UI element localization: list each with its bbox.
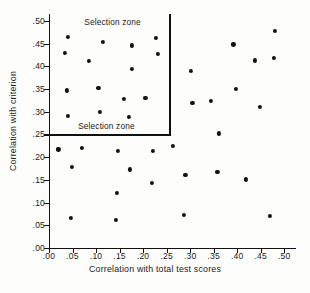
- data-point: [156, 51, 160, 55]
- data-point: [130, 43, 134, 47]
- data-point: [80, 146, 84, 150]
- data-point: [69, 215, 73, 219]
- data-point: [128, 167, 132, 171]
- data-point: [56, 147, 60, 151]
- y-tick-label: .10: [33, 198, 45, 208]
- data-point: [70, 165, 74, 169]
- figure-caption: [8, 284, 310, 293]
- data-point: [273, 29, 277, 33]
- data-point: [66, 114, 70, 118]
- data-point: [150, 149, 154, 153]
- y-tick-label: .50: [33, 16, 45, 26]
- selection-zone-vertical-boundary: [169, 14, 171, 134]
- data-point: [268, 214, 272, 218]
- data-point: [62, 51, 66, 55]
- data-point: [215, 170, 219, 174]
- data-point: [183, 173, 187, 177]
- data-point: [171, 144, 175, 148]
- data-point: [244, 177, 248, 181]
- x-tick-label: .25: [160, 251, 172, 261]
- y-tick-label: .35: [33, 84, 45, 94]
- data-point: [122, 97, 126, 101]
- x-axis-title: Correlation with total test scores: [0, 264, 310, 274]
- data-point: [189, 69, 193, 73]
- data-point: [149, 181, 153, 185]
- data-point: [66, 35, 70, 39]
- x-axis-tick-labels: .00.05.10.15.20.25.30.35.40.45.50: [49, 251, 296, 263]
- x-tick-label: .45: [254, 251, 266, 261]
- y-tick-label: .20: [33, 152, 45, 162]
- y-axis-tick-labels: .00.05.10.15.20.25.30.35.40.45.50: [18, 14, 45, 248]
- data-point: [87, 59, 91, 63]
- x-tick-label: .20: [137, 251, 149, 261]
- x-tick-label: .30: [184, 251, 196, 261]
- x-tick-label: .00: [43, 251, 55, 261]
- x-tick-label: .05: [66, 251, 78, 261]
- data-point: [231, 42, 235, 46]
- selection-zone-horizontal-boundary: [49, 134, 171, 136]
- data-point: [154, 36, 158, 40]
- y-tick-label: .45: [33, 39, 45, 49]
- data-point: [182, 213, 186, 217]
- y-tick-label: .25: [33, 129, 45, 139]
- y-tick-label: .05: [33, 220, 45, 230]
- y-axis-title: Correlation with criterion: [8, 46, 18, 196]
- data-point: [116, 149, 120, 153]
- data-point: [217, 131, 221, 135]
- selection-zone-label: Selection zone: [78, 121, 135, 131]
- x-tick-label: .10: [90, 251, 102, 261]
- y-tick-label: .15: [33, 175, 45, 185]
- y-tick-label: .30: [33, 107, 45, 117]
- data-point: [258, 105, 262, 109]
- data-point: [96, 86, 100, 90]
- x-tick-label: .50: [278, 251, 290, 261]
- data-point: [272, 56, 276, 60]
- selection-zone-label: Selection zone: [84, 17, 141, 27]
- data-point: [234, 87, 238, 91]
- data-point: [143, 96, 147, 100]
- x-axis-line: [49, 248, 296, 249]
- figure-scatter-plot: Selection zoneSelection zone .00.05.10.1…: [0, 0, 310, 293]
- y-tick-label: .40: [33, 61, 45, 71]
- x-tick-label: .40: [231, 251, 243, 261]
- data-point: [101, 40, 105, 44]
- x-tick-label: .35: [207, 251, 219, 261]
- data-point: [115, 191, 119, 195]
- data-point: [98, 110, 102, 114]
- data-point: [253, 58, 257, 62]
- data-point: [190, 101, 194, 105]
- data-point: [209, 99, 213, 103]
- data-point: [127, 115, 131, 119]
- data-point: [114, 218, 118, 222]
- plot-area: Selection zoneSelection zone: [49, 14, 296, 248]
- x-tick-label: .15: [113, 251, 125, 261]
- data-point: [130, 66, 134, 70]
- y-axis-line: [49, 14, 50, 248]
- data-point: [65, 88, 69, 92]
